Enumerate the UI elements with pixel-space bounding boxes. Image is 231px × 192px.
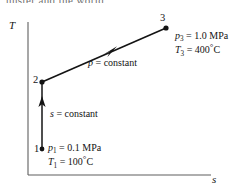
state-point-3-label: 3 (160, 12, 165, 24)
state-point-1 (40, 147, 45, 152)
process-2-3-line (42, 28, 166, 82)
state-3-temperature-row: T3 = 400°C (175, 41, 228, 56)
state-3-temperature-subscript: 3 (181, 50, 185, 58)
state-1-temperature-unit: C (86, 157, 93, 168)
state-points-group (39, 25, 168, 151)
state-point-2 (39, 79, 44, 84)
state-1-temperature-row: T1 = 100°C (48, 153, 101, 168)
x-axis-label-entropy: s (212, 173, 216, 185)
state-1-temperature-symbol: T (48, 157, 54, 168)
state-point-2-label: 2 (33, 74, 38, 86)
state-1-temperature-equals: = (57, 157, 68, 168)
process-isobaric-annotation: p = constant (88, 57, 137, 68)
process-1-2-group (38, 83, 45, 149)
state-1-pressure-value: 0.1 MPa (67, 142, 101, 153)
state-1-pressure-row: p1 = 0.1 MPa (48, 142, 101, 153)
state-1-annotation: p1 = 0.1 MPa T1 = 100°C (48, 142, 101, 168)
process-isentropic-annotation: s = constant (50, 108, 98, 119)
state-point-3 (163, 25, 168, 30)
state-point-1-label: 1 (34, 143, 39, 155)
process-2-3-group (42, 28, 166, 82)
ts-diagram-canvas (0, 0, 231, 192)
process-isobaric-text: = constant (93, 57, 137, 68)
state-3-degree-icon: ° (210, 42, 214, 52)
state-3-temperature-symbol: T (175, 45, 181, 56)
process-isentropic-text: = constant (54, 108, 98, 119)
state-3-temperature-equals: = (184, 45, 195, 56)
state-1-pressure-equals: = (57, 142, 68, 153)
state-3-annotation: p3 = 1.0 MPa T3 = 400°C (175, 30, 228, 56)
state-1-temperature-subscript: 1 (54, 162, 58, 170)
y-axis-label-temperature: T (9, 19, 15, 31)
state-1-temperature-value: 100 (68, 157, 83, 168)
state-3-temperature-value: 400 (195, 45, 210, 56)
state-1-pressure-subscript: 1 (53, 147, 57, 155)
state-3-pressure-row: p3 = 1.0 MPa (175, 30, 228, 41)
state-3-temperature-unit: C (213, 45, 220, 56)
state-3-pressure-equals: = (184, 30, 195, 41)
state-3-pressure-subscript: 3 (180, 35, 184, 43)
ts-diagram-figure: unster and the world T s 1 2 3 p1 = 0.1 … (0, 0, 231, 192)
process-2-3-arrowhead (104, 46, 118, 57)
state-3-pressure-value: 1.0 MPa (194, 30, 228, 41)
state-1-degree-icon: ° (83, 154, 87, 164)
